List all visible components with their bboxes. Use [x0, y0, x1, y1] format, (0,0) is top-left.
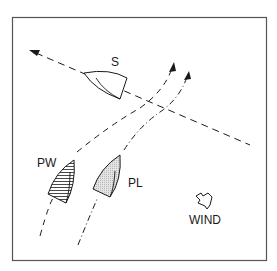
diagram-frame: [13, 18, 267, 261]
arrow-head-icon: [184, 71, 191, 80]
boat-pl: [93, 155, 120, 197]
s-course-line: [29, 50, 250, 145]
wind-arrow-icon: [196, 193, 212, 209]
pl-course-line: [78, 71, 191, 245]
label-s: S: [111, 55, 119, 69]
label-pw: PW: [37, 156, 57, 170]
label-wind: WIND: [189, 213, 221, 227]
label-pl: PL: [128, 176, 143, 190]
arrow-head-icon: [169, 62, 176, 72]
arrow-head-icon: [29, 50, 40, 56]
boat-s: [84, 71, 127, 99]
sailing-diagram: S PW PL WIND: [0, 0, 277, 271]
